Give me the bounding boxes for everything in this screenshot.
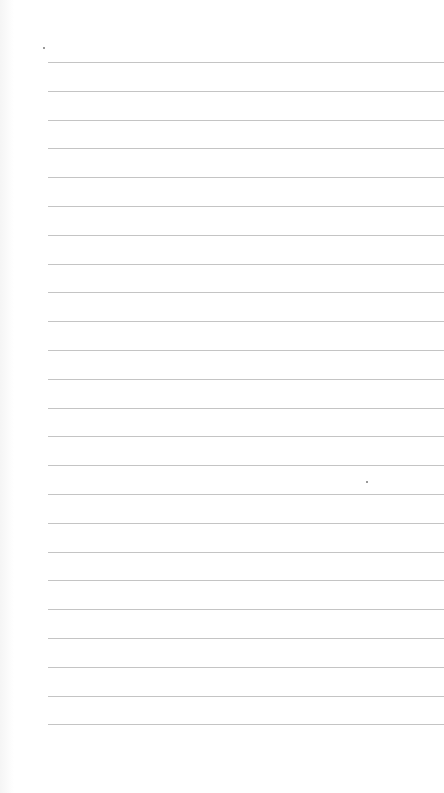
- ruled-line: [48, 696, 444, 697]
- ruled-line: [48, 494, 444, 495]
- ruled-line: [48, 465, 444, 466]
- ruled-line: [48, 321, 444, 322]
- ruled-line: [48, 91, 444, 92]
- ruled-line: [48, 350, 444, 351]
- ruled-line: [48, 523, 444, 524]
- ruled-line: [48, 724, 444, 725]
- ink-dot: [43, 47, 45, 49]
- ruled-line: [48, 379, 444, 380]
- lined-paper: [0, 0, 444, 793]
- ruled-line: [48, 667, 444, 668]
- ruled-line: [48, 235, 444, 236]
- ruled-line: [48, 609, 444, 610]
- page-edge-shadow: [0, 0, 14, 793]
- ruled-line: [48, 580, 444, 581]
- ruled-line: [48, 148, 444, 149]
- ruled-line: [48, 638, 444, 639]
- ruled-line: [48, 206, 444, 207]
- ruled-line: [48, 408, 444, 409]
- ruled-line: [48, 552, 444, 553]
- ink-dot: [366, 481, 368, 483]
- ruled-line: [48, 264, 444, 265]
- ruled-line: [48, 62, 444, 63]
- ruled-line: [48, 292, 444, 293]
- ruled-line: [48, 177, 444, 178]
- ruled-line: [48, 120, 444, 121]
- ruled-line: [48, 436, 444, 437]
